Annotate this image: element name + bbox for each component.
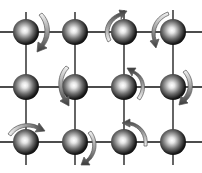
lattice-canvas: [0, 0, 202, 173]
sphere-node: [111, 129, 137, 155]
sphere-node: [62, 19, 88, 45]
sphere-node: [62, 129, 88, 155]
sphere-node: [13, 129, 39, 155]
sphere-node: [111, 74, 137, 100]
sphere-node: [62, 74, 88, 100]
sphere-node: [160, 129, 186, 155]
sphere-node: [13, 74, 39, 100]
sphere-node: [111, 19, 137, 45]
lattice-diagram: [0, 0, 202, 173]
sphere-node: [160, 19, 186, 45]
sphere-node: [160, 74, 186, 100]
sphere-node: [13, 19, 39, 45]
